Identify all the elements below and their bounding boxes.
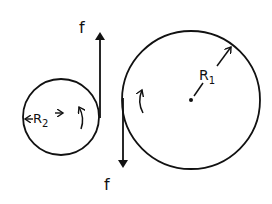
force-label-down: f	[104, 175, 110, 194]
center-dot	[189, 98, 193, 102]
small-radius-label: R2	[33, 111, 48, 129]
radius-line-inner	[194, 83, 203, 96]
rotation-arrow-small-icon	[79, 107, 83, 129]
rotation-arrow-large-icon	[140, 90, 143, 113]
large-radius-label: R1	[199, 67, 215, 86]
radius-arrow-large-icon	[217, 47, 231, 66]
large-pulley	[122, 31, 260, 169]
diagram-canvas: R2 R1 f f	[0, 0, 272, 204]
force-label-up: f	[79, 18, 85, 37]
